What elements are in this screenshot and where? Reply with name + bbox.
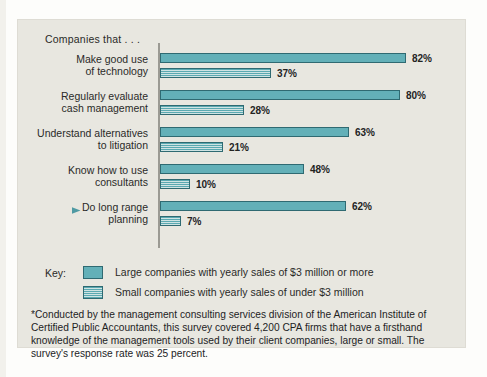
row-label-line1: Do long range [82, 201, 148, 213]
chart-header-label: Companies that . . . [45, 33, 140, 45]
chart-panel: Companies that . . . Make good use of te… [18, 20, 465, 347]
bar-value-label: 48% [310, 164, 330, 175]
row-label-line2: cash management [30, 103, 148, 115]
chart-page: Companies that . . . Make good use of te… [0, 0, 487, 377]
bar-value-label: 21% [229, 142, 249, 153]
bar-row: Regularly evaluate cash management 80% 2… [18, 89, 465, 126]
row-label-line1: Understand alternatives [37, 127, 148, 139]
row-category-label: Know how to use consultants [30, 165, 148, 188]
row-category-label: Make good use of technology [30, 54, 148, 77]
bar-value-label: 63% [355, 127, 375, 138]
row-label-line2: of technology [30, 66, 148, 78]
bar-chart: Companies that . . . Make good use of te… [18, 20, 465, 255]
bar-value-label: 82% [412, 53, 432, 64]
bar-row: Understand alternatives to litigation 63… [18, 126, 465, 163]
legend-item-large: Large companies with yearly sales of $3 … [45, 264, 445, 284]
bar-small: 28% [160, 105, 244, 115]
row-label-line1: Make good use [76, 53, 148, 65]
row-bars: 80% 28% [160, 89, 400, 115]
row-category-label: Understand alternatives to litigation [30, 128, 148, 151]
row-label-line2: to litigation [30, 140, 148, 152]
bar-value-label: 7% [187, 216, 201, 227]
bar-large: 48% [160, 164, 304, 174]
bar-row: Know how to use consultants 48% 10% [18, 163, 465, 200]
bar-value-label: 10% [196, 179, 216, 190]
row-category-label: Regularly evaluate cash management [30, 91, 148, 114]
legend-swatch-striped-icon [83, 286, 103, 299]
scan-edge-strip [0, 0, 6, 377]
bar-small: 10% [160, 179, 190, 189]
bar-value-label: 62% [352, 201, 372, 212]
row-label-line2: consultants [30, 177, 148, 189]
bar-row: Do long range planning 62% 7% [18, 200, 465, 237]
bar-small: 37% [160, 68, 271, 78]
bar-large: 80% [160, 90, 400, 100]
bar-small: 7% [160, 216, 181, 226]
bar-row: Make good use of technology 82% 37% [18, 52, 465, 89]
bar-rows: Make good use of technology 82% 37% [18, 52, 465, 237]
bar-value-label: 28% [250, 105, 270, 116]
bar-small: 21% [160, 142, 223, 152]
legend-swatch-solid-icon [83, 266, 103, 279]
row-bars: 63% 21% [160, 126, 349, 152]
row-bars: 82% 37% [160, 52, 406, 78]
row-bars: 62% 7% [160, 200, 346, 226]
row-category-label: Do long range planning [30, 202, 148, 225]
footnote-text: *Conducted by the management consulting … [31, 308, 455, 360]
bar-large: 62% [160, 201, 346, 211]
legend-label: Large companies with yearly sales of $3 … [115, 266, 374, 278]
row-label-line2: planning [30, 214, 148, 226]
row-bars: 48% 10% [160, 163, 304, 189]
bar-value-label: 80% [406, 90, 426, 101]
bar-large: 82% [160, 53, 406, 63]
legend-item-small: Small companies with yearly sales of und… [45, 284, 445, 304]
bar-large: 63% [160, 127, 349, 137]
bar-value-label: 37% [277, 68, 297, 79]
row-label-line1: Regularly evaluate [61, 90, 148, 102]
row-label-line1: Know how to use [68, 164, 148, 176]
chart-legend: Key: Large companies with yearly sales o… [45, 264, 445, 304]
legend-label: Small companies with yearly sales of und… [115, 286, 364, 298]
